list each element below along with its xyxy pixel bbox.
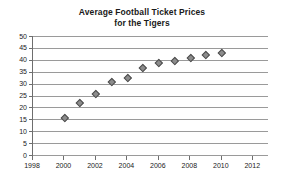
x-axis-tick: [158, 156, 159, 160]
gridline: [32, 143, 268, 144]
gridline: [32, 60, 268, 61]
data-point: [123, 74, 131, 82]
x-axis-tick: [32, 156, 33, 160]
y-axis-label: 5: [3, 140, 27, 147]
y-axis-label: 25: [3, 92, 27, 99]
x-axis-tick: [126, 156, 127, 160]
x-axis-tick: [95, 156, 96, 160]
chart-title-line-1: Average Football Ticket Prices: [0, 7, 284, 18]
y-axis-tick: [29, 60, 33, 61]
y-axis-label: 10: [3, 128, 27, 135]
y-axis-label: 50: [3, 33, 27, 40]
data-point: [60, 114, 68, 122]
data-point: [92, 90, 100, 98]
y-axis-label: 45: [3, 44, 27, 51]
y-axis-tick: [29, 119, 33, 120]
gridline: [32, 36, 268, 37]
y-axis-tick: [29, 131, 33, 132]
data-point: [202, 50, 210, 58]
data-point: [171, 56, 179, 64]
scatter-chart: Average Football Ticket Prices for the T…: [0, 0, 284, 186]
gridline: [32, 155, 268, 156]
data-point: [108, 78, 116, 86]
gridline: [32, 131, 268, 132]
data-point: [218, 49, 226, 57]
gridline: [32, 107, 268, 108]
y-axis-tick: [29, 72, 33, 73]
gridline: [32, 84, 268, 85]
chart-title: Average Football Ticket Prices for the T…: [0, 7, 284, 29]
gridline: [32, 96, 268, 97]
gridline: [32, 72, 268, 73]
x-axis-label: 2002: [80, 162, 110, 170]
y-axis-tick: [29, 48, 33, 49]
y-axis-label: 35: [3, 68, 27, 75]
x-axis-tick: [252, 156, 253, 160]
x-axis-tick: [189, 156, 190, 160]
x-axis-label: 2006: [143, 162, 173, 170]
x-axis-label: 2004: [111, 162, 141, 170]
y-axis-tick: [29, 36, 33, 37]
data-point: [139, 63, 147, 71]
y-axis-tick: [29, 84, 33, 85]
y-axis-tick: [29, 96, 33, 97]
x-axis-tick: [63, 156, 64, 160]
x-axis-label: 2000: [48, 162, 78, 170]
plot-area: [32, 36, 268, 155]
y-axis-label: 15: [3, 116, 27, 123]
y-axis-tick: [29, 107, 33, 108]
y-axis-label: 0: [3, 152, 27, 159]
y-axis-label: 40: [3, 56, 27, 63]
x-axis-label: 2012: [237, 162, 267, 170]
gridline: [32, 119, 268, 120]
y-axis-label: 20: [3, 104, 27, 111]
x-axis-label: 2008: [174, 162, 204, 170]
y-axis-label: 30: [3, 80, 27, 87]
x-axis-tick: [221, 156, 222, 160]
y-axis-tick: [29, 143, 33, 144]
x-axis-label: 1998: [17, 162, 47, 170]
chart-title-line-2: for the Tigers: [0, 18, 284, 29]
data-point: [76, 98, 84, 106]
x-axis-label: 2010: [206, 162, 236, 170]
gridline: [32, 48, 268, 49]
